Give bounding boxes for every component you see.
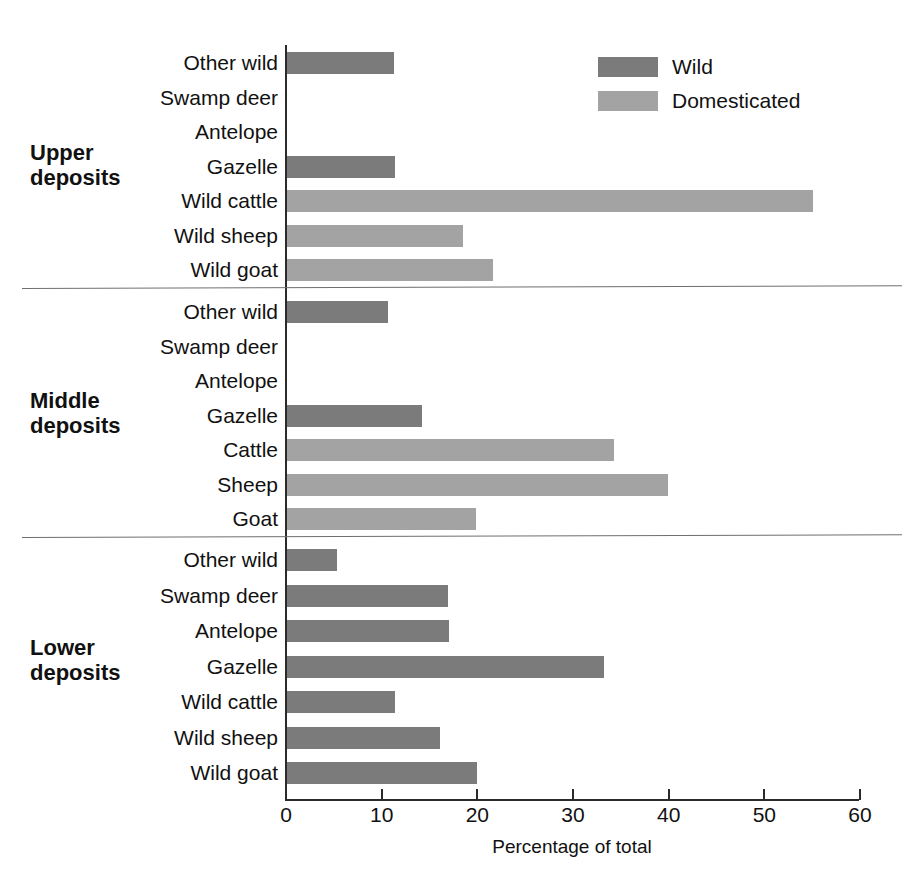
bar-wild (287, 549, 337, 571)
group-divider-middle-lower (22, 534, 902, 538)
x-tick-50 (763, 789, 765, 800)
x-tick-label-20: 20 (447, 803, 507, 827)
x-tick-30 (572, 789, 574, 800)
legend-label-wild: Wild (672, 52, 713, 82)
bar-row: Wild sheep (0, 221, 905, 251)
bar-wild (287, 620, 449, 642)
group-label-middle: Middle deposits (30, 388, 180, 439)
bar-row-label: Wild cattle (18, 687, 278, 717)
bar-row-label: Goat (18, 504, 278, 534)
bar-row-label: Wild goat (18, 758, 278, 788)
bar-domesticated (287, 225, 463, 247)
x-tick-0 (285, 789, 287, 800)
bar-domesticated (287, 439, 614, 461)
bar-wild (287, 156, 395, 178)
bar-wild (287, 762, 477, 784)
x-tick-40 (668, 789, 670, 800)
bar-domesticated (287, 259, 493, 281)
bar-wild (287, 301, 388, 323)
bar-row-label: Wild sheep (18, 723, 278, 753)
x-tick-60 (859, 789, 861, 800)
horizontal-bar-chart: Other wildSwamp deerAntelopeGazelleWild … (0, 0, 905, 879)
bar-row-label: Swamp deer (18, 581, 278, 611)
bar-row-label: Cattle (18, 435, 278, 465)
bar-row-label: Other wild (18, 48, 278, 78)
x-tick-label-10: 10 (352, 803, 412, 827)
bar-row: Swamp deer (0, 332, 905, 362)
bar-wild (287, 52, 394, 74)
x-tick-label-30: 30 (543, 803, 603, 827)
bar-row: Other wild (0, 48, 905, 78)
bar-row: Sheep (0, 470, 905, 500)
bar-wild (287, 727, 440, 749)
group-label-lower: Lower deposits (30, 635, 180, 686)
x-tick-10 (381, 789, 383, 800)
bar-row-label: Other wild (18, 545, 278, 575)
x-tick-20 (476, 789, 478, 800)
group-divider-upper-middle (22, 285, 902, 289)
legend-swatch-domesticated-icon (598, 91, 658, 111)
legend-swatch-wild-icon (598, 57, 658, 77)
group-label-upper: Upper deposits (30, 140, 180, 191)
chart-page: Other wildSwamp deerAntelopeGazelleWild … (0, 0, 905, 879)
x-tick-label-0: 0 (256, 803, 316, 827)
bar-row: Wild goat (0, 758, 905, 788)
bar-row-label: Swamp deer (18, 83, 278, 113)
bar-wild (287, 405, 422, 427)
bar-row-label: Sheep (18, 470, 278, 500)
bar-row: Wild goat (0, 255, 905, 285)
bar-row: Other wild (0, 545, 905, 575)
bar-row: Swamp deer (0, 581, 905, 611)
bar-wild (287, 656, 604, 678)
bar-row-label: Wild goat (18, 255, 278, 285)
bar-domesticated (287, 474, 668, 496)
bar-row: Wild cattle (0, 687, 905, 717)
bar-row-label: Swamp deer (18, 332, 278, 362)
x-axis-title: Percentage of total (285, 836, 859, 858)
x-tick-label-50: 50 (734, 803, 794, 827)
bar-row-label: Other wild (18, 297, 278, 327)
bar-domesticated (287, 508, 476, 530)
bar-row: Goat (0, 504, 905, 534)
bar-row: Other wild (0, 297, 905, 327)
x-tick-label-40: 40 (639, 803, 699, 827)
bar-wild (287, 691, 395, 713)
bar-row-label: Wild sheep (18, 221, 278, 251)
bar-row: Cattle (0, 435, 905, 465)
bar-row: Wild sheep (0, 723, 905, 753)
bar-wild (287, 585, 448, 607)
bar-domesticated (287, 190, 813, 212)
legend-label-domesticated: Domesticated (672, 86, 800, 116)
x-tick-label-60: 60 (830, 803, 890, 827)
